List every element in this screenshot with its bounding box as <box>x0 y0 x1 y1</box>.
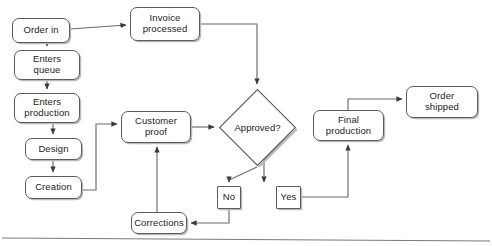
node-corrections[interactable]: Corrections <box>131 212 187 234</box>
node-yes[interactable]: Yes <box>276 186 301 209</box>
node-no-label: No <box>223 192 235 203</box>
node-order-in[interactable]: Order in <box>12 18 70 43</box>
node-corrections-label: Corrections <box>134 218 184 229</box>
node-customer-proof-label-line1: Customer <box>135 116 177 127</box>
node-invoice-processed-label-line1: Invoice <box>143 13 188 24</box>
node-creation[interactable]: Creation <box>25 176 82 199</box>
node-enters-queue[interactable]: Enters queue <box>14 50 80 80</box>
node-design[interactable]: Design <box>25 138 82 160</box>
node-invoice-processed[interactable]: Invoice processed <box>130 7 200 41</box>
node-enters-production-label-line1: Enters <box>24 97 69 108</box>
node-enters-queue-label-line2: queue <box>33 65 61 76</box>
node-enters-queue-label-line1: Enters <box>33 54 61 65</box>
connector-final_production-to-order_shipped <box>348 99 402 110</box>
connector-order_in-to-invoice <box>70 25 126 29</box>
node-final-production-label-line2: production <box>326 126 371 137</box>
node-order-shipped-label-line2: shipped <box>425 102 459 113</box>
connector-yes-to-final_production <box>301 145 348 197</box>
node-customer-proof-label-line2: proof <box>135 127 177 138</box>
node-no[interactable]: No <box>217 186 241 209</box>
node-invoice-processed-label-line2: processed <box>143 24 188 35</box>
bottom-rule <box>2 238 490 241</box>
node-enters-production[interactable]: Enters production <box>14 93 80 123</box>
node-creation-label: Creation <box>35 182 72 193</box>
connector-creation-to-customer_proof <box>82 124 117 190</box>
node-final-production[interactable]: Final production <box>313 110 384 141</box>
node-approved-decision-label: Approved? <box>218 88 297 167</box>
connector-no-to-corrections <box>191 209 229 223</box>
node-design-label: Design <box>38 144 68 155</box>
connector-approved-to-no <box>229 167 257 182</box>
node-enters-production-label-line2: production <box>24 108 69 119</box>
connector-invoice-to-approved <box>200 24 257 84</box>
node-order-shipped[interactable]: Order shipped <box>406 86 478 118</box>
node-yes-label: Yes <box>281 192 297 203</box>
node-customer-proof[interactable]: Customer proof <box>121 111 191 143</box>
node-order-in-label: Order in <box>23 25 58 36</box>
node-final-production-label-line1: Final <box>326 115 371 126</box>
node-approved-decision[interactable]: Approved? <box>218 88 297 167</box>
node-order-shipped-label-line1: Order <box>425 91 459 102</box>
flowchart-canvas: Order in Invoice processed Enters queue … <box>0 0 492 246</box>
